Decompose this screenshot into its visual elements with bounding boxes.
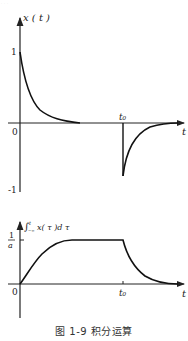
y-axis-label-rest: x( τ )d τ bbox=[37, 223, 70, 232]
plot-integral: ∫ t −∞ x( τ )d τ 1 a 0 t₀ t bbox=[8, 220, 187, 318]
decay-curve bbox=[20, 52, 80, 123]
y-axis-label-sup: t bbox=[29, 220, 32, 226]
tick-neg1: -1 bbox=[8, 185, 17, 195]
tick-t0: t₀ bbox=[119, 288, 127, 298]
y-axis-label: x ( t ) bbox=[23, 12, 50, 23]
figure-caption: 图 1-9 积分运算 bbox=[0, 323, 188, 338]
plot-x-of-t: x ( t ) 1 0 -1 t₀ t bbox=[8, 12, 187, 195]
tick-one-over-a-denominator: a bbox=[8, 241, 13, 250]
x-axis-label: t bbox=[182, 126, 187, 137]
tick-0: 0 bbox=[12, 287, 18, 297]
tick-0: 0 bbox=[12, 127, 18, 137]
recovery-curve bbox=[123, 123, 178, 176]
tick-1: 1 bbox=[11, 47, 17, 57]
x-axis-label: t bbox=[182, 288, 187, 299]
tick-one-over-a-numerator: 1 bbox=[9, 231, 14, 240]
y-axis-label-sub: −∞ bbox=[28, 228, 35, 233]
integral-curve bbox=[20, 240, 178, 284]
figure: x ( t ) 1 0 -1 t₀ t ∫ t −∞ x( τ )d τ 1 a… bbox=[0, 0, 188, 341]
tick-t0: t₀ bbox=[119, 112, 127, 122]
